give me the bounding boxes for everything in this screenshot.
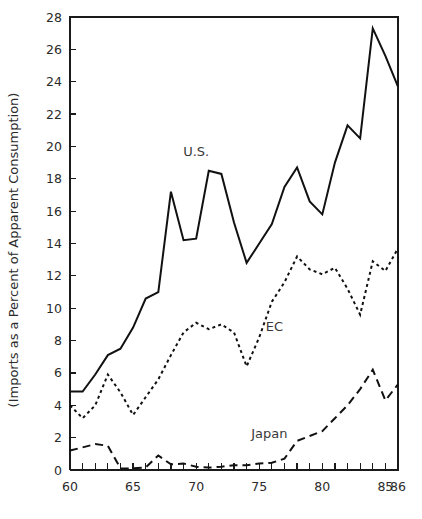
y-tick-label: 14 — [46, 236, 62, 251]
y-tick-label: 16 — [46, 204, 62, 219]
x-tick-label: 80 — [314, 479, 330, 494]
y-tick-label: 18 — [46, 171, 62, 186]
x-tick-label: 86 — [390, 479, 406, 494]
series-label-u-s: U.S. — [183, 144, 209, 159]
x-tick-label: 60 — [62, 479, 78, 494]
y-tick-label: 6 — [54, 365, 62, 380]
y-tick-label: 8 — [54, 333, 62, 348]
line-chart: (Imports as a Percent of Apparent Consum… — [0, 0, 422, 519]
y-tick-label: 20 — [46, 139, 62, 154]
y-tick-label: 26 — [46, 42, 62, 57]
y-tick-label: 24 — [46, 74, 62, 89]
series-line-ec — [70, 248, 398, 418]
series-line-japan — [70, 370, 398, 469]
y-tick-label: 12 — [46, 268, 62, 283]
y-tick-label: 4 — [54, 398, 62, 413]
series-annotations: U.S.ECJapan — [183, 144, 287, 441]
y-tick-label: 22 — [46, 107, 62, 122]
chart-container: (Imports as a Percent of Apparent Consum… — [0, 0, 422, 519]
series-line-u-s — [70, 28, 398, 391]
x-tick-label: 65 — [125, 479, 141, 494]
y-axis-title-text: (Imports as a Percent of Apparent Consum… — [6, 93, 21, 408]
x-tick-label: 70 — [188, 479, 204, 494]
y-tick-label: 10 — [46, 301, 62, 316]
series-label-japan: Japan — [250, 426, 287, 441]
y-tick-label: 2 — [54, 430, 62, 445]
y-tick-label: 0 — [54, 463, 62, 478]
series-label-ec: EC — [266, 319, 283, 334]
y-tick-label: 28 — [46, 10, 62, 25]
x-tick-label: 75 — [251, 479, 267, 494]
y-axis-title: (Imports as a Percent of Apparent Consum… — [6, 93, 21, 408]
series-lines — [70, 28, 398, 468]
x-axis-ticks: 60657075808586 — [62, 463, 406, 494]
